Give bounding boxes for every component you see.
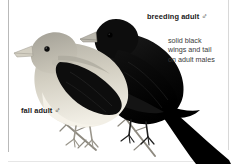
male-symbol-icon: ♂ <box>201 12 207 21</box>
field-guide-plate: breeding adult ♂ fall adult ♂ solid blac… <box>0 0 231 164</box>
annotation-line-1: solid black <box>168 36 215 45</box>
fall-adult-bill <box>14 46 33 57</box>
label-breeding-adult: breeding adult ♂ <box>147 13 208 22</box>
annotation-line-3: on adult males <box>168 55 215 64</box>
breeding-adult-primaries <box>166 106 200 118</box>
label-fall-adult-text: fall adult <box>21 106 52 115</box>
fall-adult-eye <box>44 46 49 51</box>
bird-illustration <box>0 0 231 164</box>
male-symbol-icon: ♂ <box>55 106 61 115</box>
annotation-line-2: wings and tail <box>168 45 215 54</box>
annotation-note: solid black wings and tail on adult male… <box>168 36 215 64</box>
breeding-adult-bill <box>80 32 97 42</box>
breeding-adult-eye <box>107 32 112 37</box>
label-fall-adult: fall adult ♂ <box>21 107 61 116</box>
label-breeding-adult-text: breeding adult <box>147 12 199 21</box>
